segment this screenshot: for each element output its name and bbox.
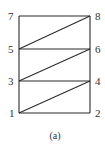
node-label-8: 8 xyxy=(95,10,101,22)
node-label-6: 6 xyxy=(95,43,101,55)
node-label-2: 2 xyxy=(95,107,101,119)
edge-3-6 xyxy=(19,49,90,81)
node-label-3: 3 xyxy=(8,75,14,87)
edge-group xyxy=(19,16,90,113)
node-label-5: 5 xyxy=(8,43,14,55)
node-label-7: 7 xyxy=(8,10,14,22)
diagram-canvas: 12345678 (a) xyxy=(0,0,105,146)
mesh-diagram: 12345678 (a) xyxy=(0,0,105,146)
edge-1-4 xyxy=(19,81,90,113)
figure-caption: (a) xyxy=(49,130,60,142)
node-label-1: 1 xyxy=(9,107,15,119)
node-label-4: 4 xyxy=(95,75,101,87)
edge-5-8 xyxy=(19,16,90,49)
